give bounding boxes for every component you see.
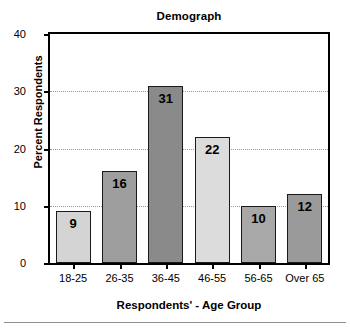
bar: 22 (195, 137, 230, 263)
bar: 31 (148, 86, 183, 263)
bar: 9 (56, 211, 91, 263)
y-tick-label: 30 (0, 86, 26, 97)
x-tick-mark (212, 265, 214, 269)
x-tick-mark (305, 265, 307, 269)
gridline (50, 206, 328, 207)
gridline (50, 149, 328, 150)
plot-area: 91631221012 (48, 32, 330, 265)
bar-value-label: 16 (112, 177, 126, 190)
bar: 16 (102, 171, 137, 263)
bar-value-label: 22 (205, 143, 219, 156)
y-tick-label: 0 (0, 258, 26, 269)
x-tick-mark (73, 265, 75, 269)
y-axis-label-container: Percent Respondents (28, 12, 48, 212)
x-tick-mark (120, 265, 122, 269)
bottom-divider (4, 322, 346, 323)
bar-value-label: 10 (251, 212, 265, 225)
x-axis-label: Respondents' - Age Group (48, 299, 330, 311)
bar-value-label: 9 (70, 217, 77, 230)
x-tick-mark (166, 265, 168, 269)
y-tick-label: 40 (0, 29, 26, 40)
y-tick-label: 10 (0, 201, 26, 212)
x-tick-mark (259, 265, 261, 269)
bar-value-label: 12 (298, 200, 312, 213)
bar-value-label: 31 (159, 92, 173, 105)
x-tick-label: Over 65 (275, 272, 335, 285)
chart-title: Demograph (48, 10, 330, 22)
y-tick-label: 20 (0, 144, 26, 155)
chart-screenshot: Demograph Percent Respondents 010203040 … (0, 0, 350, 331)
y-axis-label: Percent Respondents (32, 55, 44, 168)
gridline (50, 91, 328, 92)
bar: 10 (241, 206, 276, 263)
plot-inner: 91631221012 (50, 34, 328, 263)
bar: 12 (287, 194, 322, 263)
